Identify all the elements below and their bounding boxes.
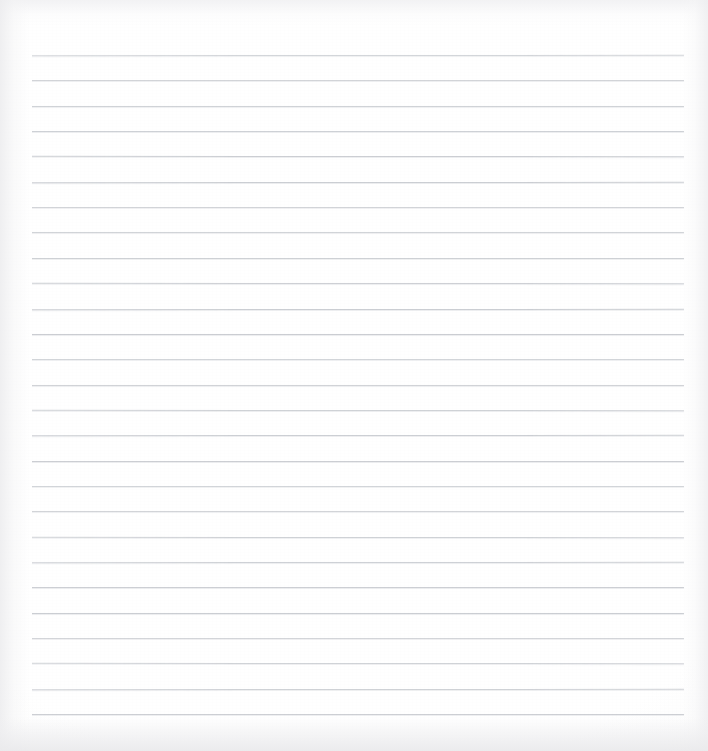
rule-line [32,587,684,588]
rule-line [32,714,684,715]
rule-line [32,638,684,639]
rule-line [32,689,684,690]
rule-line [32,156,684,157]
rule-line [32,232,684,233]
ruling-lines-group [0,0,708,751]
rule-line [32,359,684,360]
rule-line [32,258,684,259]
rule-line [32,511,684,512]
rule-line [32,283,684,284]
paper-sheet [0,0,708,751]
scanned-page-canvas [0,0,708,751]
rule-line [32,613,684,614]
rule-line [32,80,684,81]
rule-line [32,182,684,183]
rule-line [32,461,684,462]
rule-line [32,435,684,436]
rule-line [32,384,684,385]
rule-line [32,55,684,56]
rule-line [32,663,684,664]
rule-line [32,486,684,487]
rule-line [32,410,684,411]
rule-line [32,207,684,208]
rule-line [32,308,684,309]
rule-line [32,334,684,335]
rule-line [32,537,684,538]
rule-line [32,562,684,563]
rule-line [32,131,684,132]
rule-line [32,106,684,107]
